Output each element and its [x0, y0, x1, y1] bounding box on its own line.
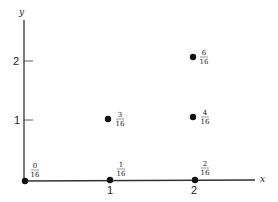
point-label-2-1: 4 16	[201, 109, 210, 126]
data-point-1-1	[105, 116, 111, 122]
point-label-2-0: 2 16	[201, 160, 210, 177]
x-axis	[24, 180, 255, 181]
svg-text:4: 4	[203, 109, 208, 117]
svg-text:6: 6	[202, 49, 207, 57]
data-point-2-1	[190, 114, 196, 120]
svg-text:16: 16	[201, 118, 210, 126]
data-point-2-2	[190, 54, 196, 60]
x-tick-label-1: 1	[107, 184, 113, 196]
x-axis-label: x	[260, 174, 265, 184]
y-tick-label-1: 1	[14, 114, 20, 126]
svg-text:2: 2	[203, 160, 207, 168]
svg-text:16: 16	[31, 171, 40, 179]
chart-plot: y x 2 1 1 2 0 16 1 16 2 16 3 16 4 16 6	[0, 0, 278, 202]
data-point-1-0	[107, 177, 113, 183]
point-label-1-0: 1 16	[117, 161, 126, 178]
y-axis-label: y	[18, 7, 25, 17]
svg-text:16: 16	[116, 120, 125, 128]
point-label-2-2: 6 16	[200, 49, 209, 66]
data-point-2-0	[192, 177, 198, 183]
svg-text:16: 16	[117, 170, 126, 178]
svg-text:3: 3	[118, 111, 122, 119]
point-label-1-1: 3 16	[116, 111, 125, 128]
svg-text:16: 16	[201, 169, 210, 177]
svg-text:0: 0	[33, 162, 37, 170]
point-label-0-0: 0 16	[31, 162, 40, 179]
svg-text:16: 16	[200, 58, 209, 66]
svg-text:1: 1	[119, 161, 123, 169]
y-tick-label-2: 2	[13, 55, 19, 67]
x-tick-label-2: 2	[191, 184, 197, 196]
data-point-0-0	[22, 178, 28, 184]
